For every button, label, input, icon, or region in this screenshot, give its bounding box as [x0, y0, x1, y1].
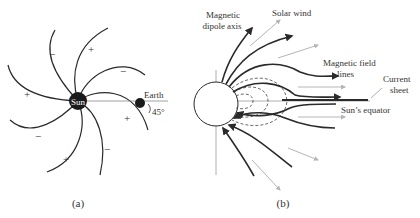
panel-a-spiral: Sun Earth 45° + − + − + − + − (a): [8, 28, 168, 210]
svg-text:+: +: [88, 43, 94, 55]
svg-text:−: −: [35, 130, 41, 142]
sun-disk: [194, 82, 238, 126]
svg-text:+: +: [24, 88, 30, 100]
angle-arc: [148, 104, 150, 113]
current-sheet-label-1: Current: [383, 74, 411, 84]
svg-text:−: −: [104, 143, 110, 155]
panel-b-field: Magnetic dipole axis Solar wind Magnetic…: [194, 8, 411, 210]
field-lines-label-2: lines: [337, 69, 354, 79]
solar-wind-label: Solar wind: [272, 8, 312, 18]
svg-text:+: +: [124, 112, 130, 124]
equator-label: Sun’s equator: [341, 105, 390, 115]
panel-b-caption: (b): [277, 197, 290, 210]
svg-text:+: +: [63, 153, 69, 165]
open-field-lines: [222, 28, 368, 176]
current-sheet-label-2: sheet: [390, 85, 409, 95]
svg-text:−: −: [49, 48, 55, 60]
diagram-canvas: Sun Earth 45° + − + − + − + − (a): [0, 0, 420, 218]
svg-text:−: −: [120, 65, 126, 77]
panel-a-caption: (a): [72, 197, 85, 210]
current-sheet-pointer: [371, 88, 382, 98]
angle-label: 45°: [152, 107, 165, 117]
dipole-axis-label-2: dipole axis: [202, 21, 242, 31]
sun-label: Sun: [71, 97, 86, 107]
earth-label: Earth: [144, 90, 164, 100]
dipole-axis-label-1: Magnetic: [206, 10, 240, 20]
field-lines-label-1: Magnetic field: [323, 58, 376, 68]
